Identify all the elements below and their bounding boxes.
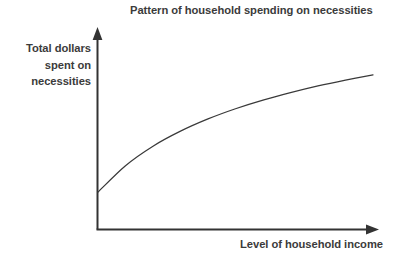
y-axis-arrowhead	[93, 27, 103, 40]
plot-area	[0, 0, 410, 267]
x-axis-arrowhead	[366, 225, 379, 235]
chart-figure: Pattern of household spending on necessi…	[0, 0, 410, 267]
data-curve-spending	[98, 75, 373, 192]
